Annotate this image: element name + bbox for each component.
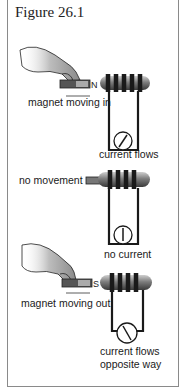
galvanometer-icon [117,323,137,343]
induction-diagram: N [0,0,182,392]
result-opposite-way: opposite way [100,358,161,370]
bar-magnet [60,80,90,88]
coil [98,170,150,189]
pole-label-n: N [91,80,98,90]
caption-no-movement: no movement [19,174,83,186]
caption-moving-out: magnet moving out [21,297,110,309]
result-current-flows-2: current flows [100,345,160,357]
galvanometer-icon [114,226,132,244]
coil [100,273,152,292]
caption-moving-in: magnet moving in [28,96,111,108]
hand-icon [22,244,76,284]
panel-no-movement [86,170,150,244]
pole-label-s: S [93,279,99,289]
coil [100,74,150,92]
bar-magnet [62,279,92,287]
result-no-current: no current [104,248,151,260]
result-current-flows: current flows [99,148,159,160]
